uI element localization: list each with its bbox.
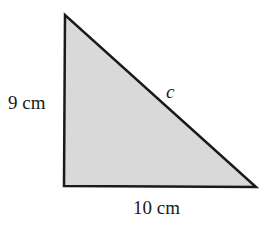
horizontal-side-label: 10 cm	[133, 198, 180, 217]
vertical-side-label: 9 cm	[8, 93, 45, 112]
triangle-figure	[0, 0, 275, 226]
right-triangle	[64, 15, 256, 187]
hypotenuse-label: c	[166, 82, 174, 101]
